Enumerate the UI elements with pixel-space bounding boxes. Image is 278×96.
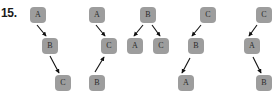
arrow-diagram-1-A-to-B (37, 25, 46, 36)
node-diagram-5-b: B (256, 75, 272, 91)
node-diagram-1-a: A (30, 7, 46, 23)
arrow-diagram-5-A-to-B (253, 57, 261, 73)
arrow-diagram-2-A-to-C (96, 25, 105, 36)
node-diagram-3-b: B (140, 7, 156, 23)
node-diagram-4-a: A (178, 75, 194, 91)
arrow-diagram-1-B-to-C (50, 56, 59, 73)
node-diagram-3-c: C (153, 38, 169, 54)
node-diagram-2-c: C (101, 38, 117, 54)
arrow-diagram-2-B-to-C (95, 57, 104, 72)
arrow-diagram-4-B-to-A (182, 58, 190, 73)
flowchart-problem-canvas: 15. ABCACBBACCBACAB (0, 0, 278, 96)
node-diagram-2-b: B (89, 75, 105, 91)
node-diagram-1-b: B (42, 38, 58, 54)
node-diagram-2-a: A (89, 7, 105, 23)
node-diagram-5-c: C (256, 7, 272, 23)
arrow-diagram-3-B-to-C (152, 25, 160, 36)
node-diagram-3-a: A (127, 38, 143, 54)
node-diagram-1-c: C (55, 75, 71, 91)
arrow-group (37, 25, 261, 73)
node-diagram-4-c: C (200, 7, 216, 23)
node-diagram-4-b: B (188, 38, 204, 54)
arrow-diagram-3-B-to-A (134, 25, 143, 36)
node-diagram-5-a: A (244, 38, 260, 54)
question-number: 15. (1, 6, 17, 20)
arrow-diagram-4-C-to-B (192, 25, 201, 36)
arrow-diagram-5-C-to-A (249, 25, 257, 36)
